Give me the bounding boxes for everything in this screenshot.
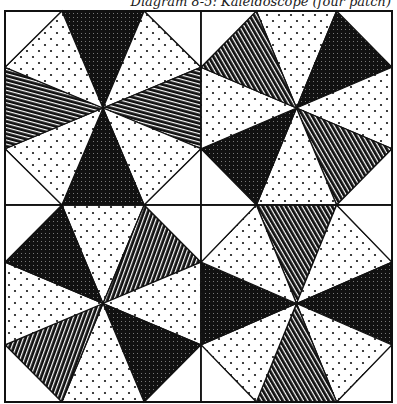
quilt-block-bottom-right bbox=[201, 205, 392, 402]
quilt-block-top-left bbox=[5, 11, 201, 205]
quilt-block-top-right bbox=[201, 11, 392, 205]
quilt-block-bottom-left bbox=[5, 205, 201, 402]
kaleidoscope-quilt-diagram bbox=[0, 0, 397, 404]
